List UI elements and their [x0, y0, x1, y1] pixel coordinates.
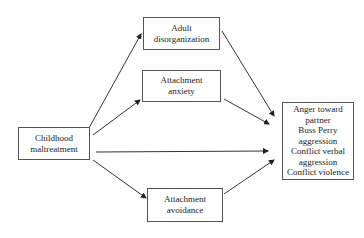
arrow-maltreatment-to-anxiety [93, 100, 140, 135]
arrow-anxiety-to-outcomes [224, 99, 269, 124]
node-adult-disorganization: Adult disorganization [143, 17, 220, 50]
node-label-line: Anger toward [293, 104, 343, 115]
arrow-maltreatment-to-disorganization [89, 34, 141, 128]
arrow-avoidance-to-outcomes [224, 160, 274, 194]
node-attachment-avoidance: Attachment avoidance [147, 188, 223, 222]
node-label-line: Childhood [35, 133, 73, 144]
node-label-line: partner [305, 115, 330, 126]
node-label-line: Adult [171, 23, 192, 34]
node-label-line: aggression [299, 136, 338, 147]
node-attachment-anxiety: Attachment anxiety [142, 70, 221, 102]
node-label-line: Conflict violence [287, 167, 349, 178]
node-label-line: disorganization [154, 34, 209, 45]
node-label-line: Attachment [161, 75, 203, 86]
node-childhood-maltreatment: Childhood maltreatment [18, 127, 90, 160]
node-label-line: aggression [299, 157, 338, 168]
node-label-line: avoidance [167, 205, 203, 216]
node-label-line: Buss Perry [298, 125, 337, 136]
node-outcomes: Anger toward partner Buss Perry aggressi… [282, 102, 354, 180]
path-diagram: Childhood maltreatment Adult disorganiza… [0, 0, 364, 238]
arrow-disorganization-to-outcomes [222, 31, 274, 116]
node-label-line: maltreatment [30, 144, 77, 155]
node-label-line: Conflict verbal [291, 146, 345, 157]
node-label-line: anxiety [168, 86, 195, 97]
node-label-line: Attachment [164, 194, 206, 205]
arrow-maltreatment-to-avoidance [93, 160, 146, 198]
arrow-maltreatment-to-outcomes [96, 151, 268, 152]
